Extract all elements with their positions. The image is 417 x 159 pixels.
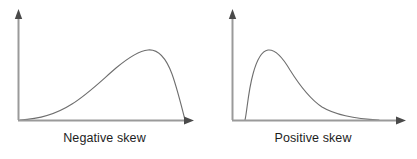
negative-skew-panel: Negative skew	[0, 0, 209, 159]
skewness-figure: Negative skew	[0, 0, 417, 159]
positive-skew-panel: Positive skew	[209, 0, 417, 159]
x-axis-right-arrow-icon	[184, 117, 194, 125]
y-axis-up-arrow-icon	[15, 9, 22, 19]
negative-skew-shaded-area	[18, 40, 190, 122]
positive-skew-caption: Positive skew	[209, 131, 417, 145]
y-axis-up-arrow-icon	[229, 9, 236, 19]
x-axis-right-arrow-icon	[396, 117, 406, 125]
negative-skew-caption: Negative skew	[0, 131, 209, 145]
